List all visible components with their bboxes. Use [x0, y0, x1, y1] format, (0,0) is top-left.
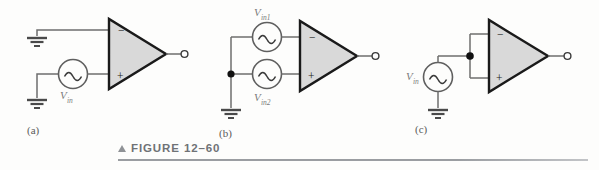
op-amp-c-noninverting-label: +: [496, 72, 503, 84]
output-terminal-b: [372, 53, 379, 60]
source-vin-label: V in: [60, 89, 73, 105]
op-amp-c: − +: [489, 20, 548, 92]
source-vin-label-sub: in: [67, 96, 73, 105]
op-amp-a-noninverting-label: +: [117, 70, 124, 82]
sublabel-c: (c): [415, 123, 428, 136]
source-vin: [59, 60, 88, 89]
source-vin2-label: V in2: [254, 91, 271, 107]
op-amp-b-inverting-label: −: [309, 31, 316, 43]
source-vin1-label: V in1: [254, 6, 271, 22]
source-vin-c-label-sub: in: [413, 77, 419, 86]
op-amp-b-noninverting-label: +: [308, 70, 315, 82]
junction-dot-c: [466, 52, 474, 60]
source-vin1: [253, 23, 282, 52]
triangle-up-icon: [118, 145, 126, 152]
sublabel-a: (a): [27, 124, 40, 137]
op-amp-a-inverting-label: −: [118, 24, 125, 36]
source-vin1-label-sub: in1: [261, 13, 271, 22]
source-vin2: [253, 60, 282, 89]
circuit-b: V in1 V in2 − +: [219, 6, 379, 140]
figure-page: − + V in (a): [0, 0, 599, 170]
figure-caption-row: FIGURE 12–60: [118, 140, 588, 156]
op-amp-a: − +: [109, 19, 166, 89]
ground-bottom-a: [27, 100, 47, 108]
circuit-c: V in −: [406, 20, 571, 136]
junction-dot-b: [227, 70, 234, 77]
figure-caption-label: FIGURE 12–60: [131, 142, 220, 154]
sublabel-b: (b): [219, 127, 232, 140]
op-amp-c-inverting-label: −: [497, 28, 504, 40]
wire-ground-to-source-a: [37, 74, 58, 98]
output-terminal-c: [564, 53, 571, 60]
ground-b: [221, 110, 241, 118]
caption-divider: [118, 159, 588, 161]
source-vin-c: [424, 63, 453, 92]
ground-top-a: [27, 38, 47, 46]
source-vin2-label-sub: in2: [261, 98, 271, 107]
figure-caption-block: FIGURE 12–60: [118, 140, 588, 161]
op-amp-b: − +: [300, 21, 357, 91]
circuit-a: − + V in (a): [27, 19, 188, 137]
output-terminal-a: [181, 51, 188, 58]
ground-c: [428, 110, 448, 118]
wire-ground-to-inverting-a: [37, 30, 109, 36]
source-vin-c-label: V in: [406, 70, 419, 86]
